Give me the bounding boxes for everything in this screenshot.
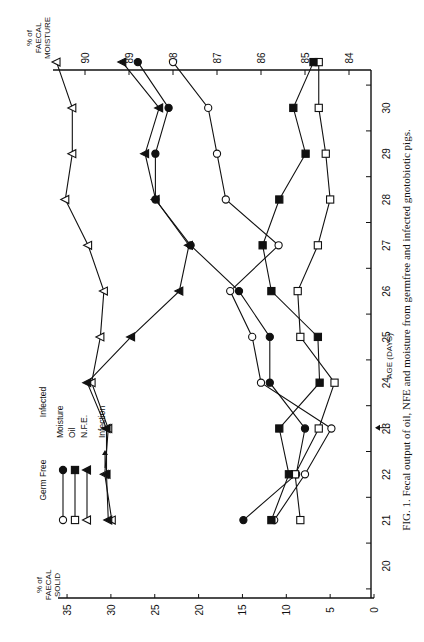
open-triangle-marker-icon bbox=[61, 196, 69, 204]
series-line bbox=[173, 62, 331, 520]
filled-circle-marker-icon bbox=[235, 288, 242, 295]
open-square-marker-icon bbox=[314, 242, 321, 249]
solid-tick-label: 10 bbox=[281, 604, 292, 616]
filled-circle-marker-icon bbox=[165, 104, 172, 111]
open-square-marker-icon bbox=[322, 150, 329, 157]
solid-tick-label: 30 bbox=[106, 604, 117, 616]
legend: Germ FreeInfectedMoistureOilN.F.E.Infect… bbox=[38, 387, 108, 524]
legend-label: Oil bbox=[67, 428, 77, 439]
moisture-tick-label: 86 bbox=[256, 52, 267, 64]
open-circle-marker-icon bbox=[169, 59, 176, 66]
moisture-tick-label: 87 bbox=[212, 52, 223, 64]
solid-tick-label: 5 bbox=[325, 607, 336, 613]
legend-infected-heading: Infected bbox=[38, 387, 48, 418]
moisture-tick-label: 90 bbox=[80, 52, 91, 64]
open-circle-marker-icon bbox=[275, 242, 282, 249]
filled-triangle-marker-icon bbox=[83, 379, 91, 387]
filled-square-marker-icon bbox=[71, 466, 78, 473]
filled-square-marker-icon bbox=[290, 104, 297, 111]
filled-square-marker-icon bbox=[310, 59, 317, 66]
open-circle-marker-icon bbox=[227, 288, 234, 295]
filled-circle-marker-icon bbox=[134, 59, 141, 66]
filled-circle-marker-icon bbox=[59, 466, 66, 473]
infection-arrow-head-icon bbox=[375, 425, 380, 431]
open-circle-marker-icon bbox=[301, 471, 308, 478]
filled-square-marker-icon bbox=[276, 425, 283, 432]
age-axis-title: AGE (DAYS) bbox=[385, 333, 394, 379]
filled-circle-marker-icon bbox=[266, 333, 273, 340]
series-infected-oil bbox=[259, 59, 323, 524]
series-infected-moisture bbox=[134, 59, 308, 524]
age-tick-label: 29 bbox=[381, 148, 392, 160]
chart: 05101520253035% ofFAECALSOLID84858687888… bbox=[0, 0, 424, 642]
open-square-marker-icon bbox=[294, 288, 301, 295]
filled-square-marker-icon bbox=[285, 471, 292, 478]
age-tick-label: 21 bbox=[381, 514, 392, 526]
age-tick-label: 27 bbox=[381, 239, 392, 251]
age-tick-label: 30 bbox=[381, 102, 392, 114]
legend-label: Moisture bbox=[55, 405, 65, 438]
solid-tick-label: 35 bbox=[62, 604, 73, 616]
moisture-axis-title: MOISTURE bbox=[43, 17, 52, 59]
solid-tick-label: 20 bbox=[194, 604, 205, 616]
solid-tick-label: 15 bbox=[237, 604, 248, 616]
open-circle-marker-icon bbox=[213, 150, 220, 157]
open-triangle-marker-icon bbox=[52, 58, 60, 66]
age-tick-label: 23 bbox=[381, 423, 392, 435]
filled-circle-marker-icon bbox=[240, 517, 247, 524]
age-tick-label: 20 bbox=[381, 560, 392, 572]
solid-axis-title: FAECAL bbox=[44, 569, 53, 600]
open-circle-marker-icon bbox=[222, 196, 229, 203]
legend-label: N.F.E. bbox=[79, 415, 89, 438]
filled-circle-marker-icon bbox=[152, 150, 159, 157]
open-triangle-marker-icon bbox=[84, 241, 92, 249]
filled-square-marker-icon bbox=[268, 517, 275, 524]
plot-area bbox=[52, 58, 338, 524]
series-germ-free-moisture bbox=[169, 59, 335, 524]
open-square-marker-icon bbox=[331, 379, 338, 386]
open-square-marker-icon bbox=[327, 196, 334, 203]
age-tick-label: 28 bbox=[381, 194, 392, 206]
figure-caption: FIG. 1. Fecal output of oil, NFE and moi… bbox=[400, 129, 412, 531]
open-square-marker-icon bbox=[71, 516, 78, 523]
legend-infection-label: Infection bbox=[97, 406, 107, 438]
filled-circle-marker-icon bbox=[301, 425, 308, 432]
solid-tick-label: 25 bbox=[150, 604, 161, 616]
open-square-marker-icon bbox=[315, 425, 322, 432]
open-square-marker-icon bbox=[297, 517, 304, 524]
filled-square-marker-icon bbox=[302, 150, 309, 157]
open-square-marker-icon bbox=[297, 333, 304, 340]
age-tick-label: 22 bbox=[381, 468, 392, 480]
age-tick-label: 26 bbox=[381, 285, 392, 297]
filled-circle-marker-icon bbox=[266, 379, 273, 386]
chart-canvas: 05101520253035% ofFAECALSOLID84858687888… bbox=[0, 0, 424, 642]
filled-square-marker-icon bbox=[316, 379, 323, 386]
solid-tick-label: 0 bbox=[369, 607, 380, 613]
moisture-axis-title: FAECAL bbox=[34, 22, 43, 53]
open-circle-marker-icon bbox=[257, 379, 264, 386]
moisture-axis-title: % of bbox=[25, 29, 34, 46]
series-line bbox=[138, 62, 305, 520]
open-square-marker-icon bbox=[315, 104, 322, 111]
filled-square-marker-icon bbox=[314, 333, 321, 340]
solid-axis-title: % of bbox=[35, 576, 44, 593]
filled-square-marker-icon bbox=[276, 196, 283, 203]
solid-axis-title: SOLID bbox=[53, 573, 62, 597]
filled-square-marker-icon bbox=[268, 288, 275, 295]
filled-triangle-marker-icon bbox=[141, 150, 149, 158]
open-circle-marker-icon bbox=[205, 104, 212, 111]
legend-germfree-heading: Germ Free bbox=[38, 459, 48, 500]
moisture-tick-label: 84 bbox=[344, 52, 355, 64]
filled-triangle-marker-icon bbox=[118, 58, 126, 66]
open-circle-marker-icon bbox=[249, 333, 256, 340]
filled-square-marker-icon bbox=[259, 242, 266, 249]
open-circle-marker-icon bbox=[328, 425, 335, 432]
open-circle-marker-icon bbox=[59, 516, 66, 523]
